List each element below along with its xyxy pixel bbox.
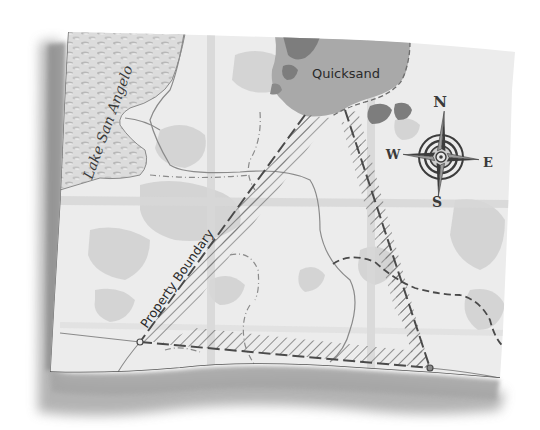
compass-north: N [433, 93, 447, 111]
compass-south: S [432, 194, 442, 210]
map-illustration: Lake San Angelo Quicksand Property Bound… [0, 0, 540, 430]
boundary-corner-se [427, 365, 433, 371]
map-paper [40, 20, 530, 390]
compass-west: W [385, 147, 401, 162]
boundary-corner-sw [137, 339, 143, 345]
quicksand-label: Quicksand [312, 66, 380, 81]
compass-east: E [483, 155, 493, 170]
